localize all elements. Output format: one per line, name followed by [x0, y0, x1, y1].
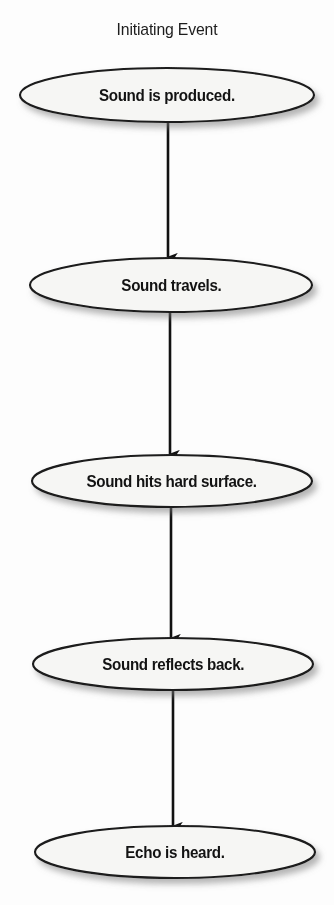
node-label-5: Echo is heard. [125, 844, 224, 861]
flow-node-sound-travels[interactable]: Sound travels. [30, 258, 312, 312]
flow-node-sound-reflects-back[interactable]: Sound reflects back. [33, 638, 313, 690]
flow-node-sound-is-produced[interactable]: Sound is produced. [20, 68, 314, 122]
flow-node-sound-hits-hard-surface[interactable]: Sound hits hard surface. [32, 455, 312, 507]
node-label-4: Sound reflects back. [102, 656, 244, 673]
node-label-3: Sound hits hard surface. [87, 473, 257, 490]
node-label-1: Sound is produced. [99, 87, 235, 104]
flow-node-echo-is-heard[interactable]: Echo is heard. [35, 826, 315, 878]
flowchart-canvas [0, 0, 334, 905]
node-label-2: Sound travels. [121, 277, 221, 294]
